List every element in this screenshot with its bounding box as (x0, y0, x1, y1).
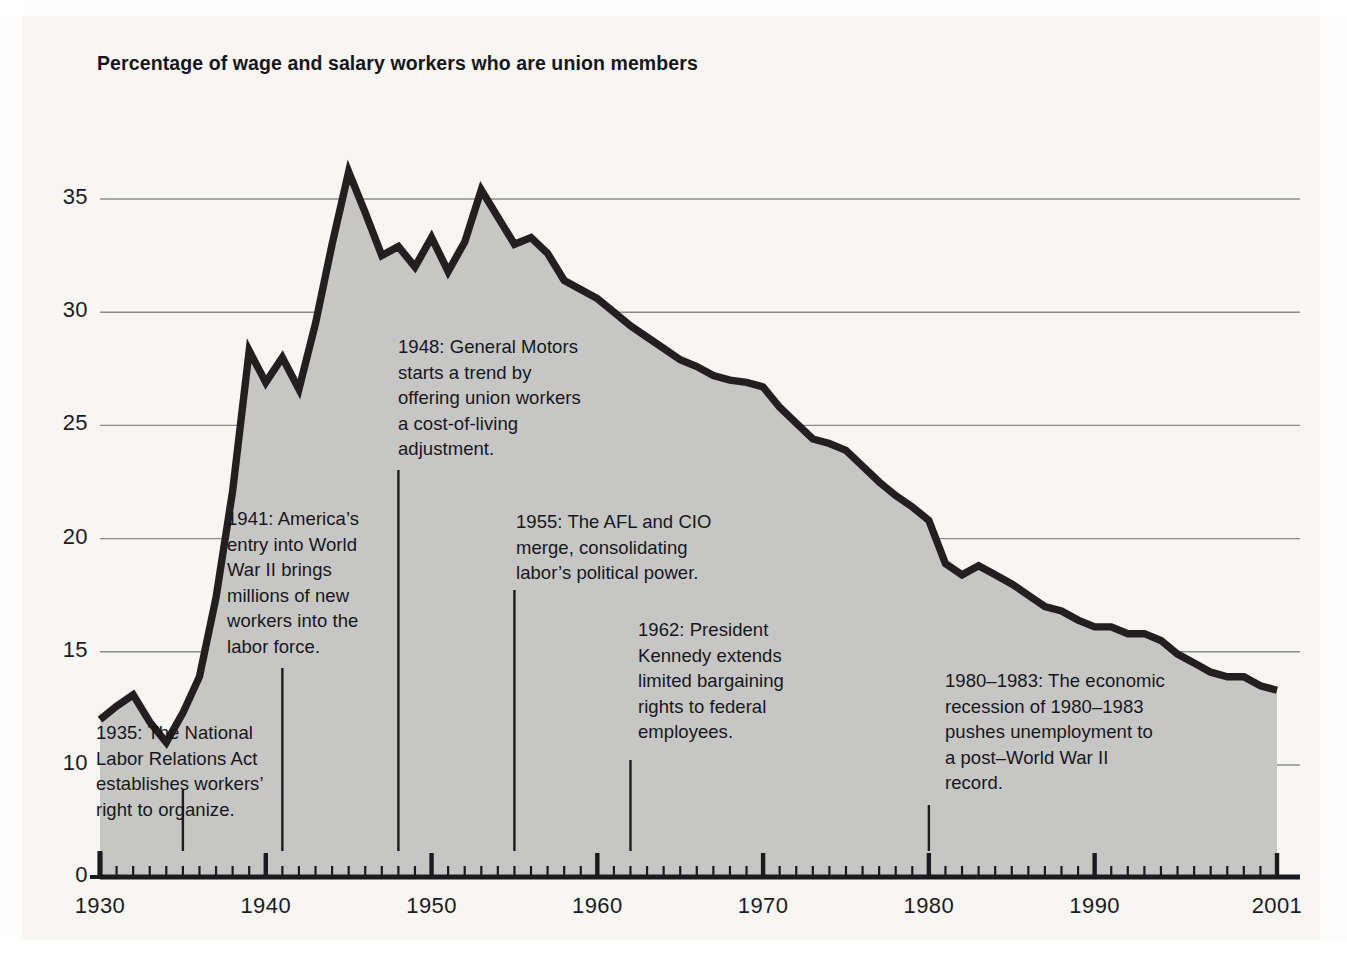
x-axis-tick-label-1930: 1930 (55, 893, 145, 919)
annotation-line: entry into World (227, 532, 359, 558)
annotation-line: 1948: General Motors (398, 334, 581, 360)
annotation-line: adjustment. (398, 436, 581, 462)
annotation-1941: 1941: America’sentry into WorldWar II br… (227, 506, 359, 659)
annotation-line: pushes unemployment to (945, 719, 1165, 745)
annotation-line: 1980–1983: The economic (945, 668, 1165, 694)
x-axis-tick-label-1950: 1950 (387, 893, 477, 919)
y-axis-tick-label-15: 15 (36, 637, 88, 663)
x-axis-tick-label-1960: 1960 (552, 893, 642, 919)
x-axis-tick-label-1970: 1970 (718, 893, 808, 919)
y-axis-tick-label-35: 35 (36, 184, 88, 210)
annotation-1962: 1962: PresidentKennedy extendslimited ba… (638, 617, 784, 745)
annotation-line: Labor Relations Act (96, 746, 264, 772)
annotation-line: offering union workers (398, 385, 581, 411)
annotation-line: workers into the (227, 608, 359, 634)
annotation-line: record. (945, 770, 1165, 796)
annotation-line: Kennedy extends (638, 643, 784, 669)
annotation-line: millions of new (227, 583, 359, 609)
annotation-line: 1941: America’s (227, 506, 359, 532)
annotation-line: limited bargaining (638, 668, 784, 694)
annotation-1935: 1935: The NationalLabor Relations Actest… (96, 720, 264, 822)
y-axis-tick-label-10: 10 (36, 750, 88, 776)
annotation-line: labor force. (227, 634, 359, 660)
x-axis-tick-label-1980: 1980 (884, 893, 974, 919)
annotation-line: merge, consolidating (516, 535, 711, 561)
y-axis-tick-label-25: 25 (36, 410, 88, 436)
annotation-line: a cost-of-living (398, 411, 581, 437)
annotation-line: 1962: President (638, 617, 784, 643)
annotation-line: 1955: The AFL and CIO (516, 509, 711, 535)
x-axis-tick-label-1990: 1990 (1050, 893, 1140, 919)
annotation-line: recession of 1980–1983 (945, 694, 1165, 720)
annotation-line: right to organize. (96, 797, 264, 823)
annotation-1980: 1980–1983: The economicrecession of 1980… (945, 668, 1165, 796)
chart-figure: Percentage of wage and salary workers wh… (0, 0, 1347, 966)
annotation-line: War II brings (227, 557, 359, 583)
y-axis-tick-label-20: 20 (36, 524, 88, 550)
annotation-line: labor’s political power. (516, 560, 711, 586)
annotation-line: rights to federal (638, 694, 784, 720)
annotation-1955: 1955: The AFL and CIOmerge, consolidatin… (516, 509, 711, 586)
x-axis-tick-label-2001: 2001 (1232, 893, 1322, 919)
y-axis-tick-label-30: 30 (36, 297, 88, 323)
annotation-1948: 1948: General Motorsstarts a trend byoff… (398, 334, 581, 462)
annotation-line: 1935: The National (96, 720, 264, 746)
annotation-line: starts a trend by (398, 360, 581, 386)
annotation-line: employees. (638, 719, 784, 745)
y-axis-tick-label-0: 0 (36, 862, 88, 888)
annotation-line: a post–World War II (945, 745, 1165, 771)
annotation-line: establishes workers’ (96, 771, 264, 797)
x-axis-tick-label-1940: 1940 (221, 893, 311, 919)
